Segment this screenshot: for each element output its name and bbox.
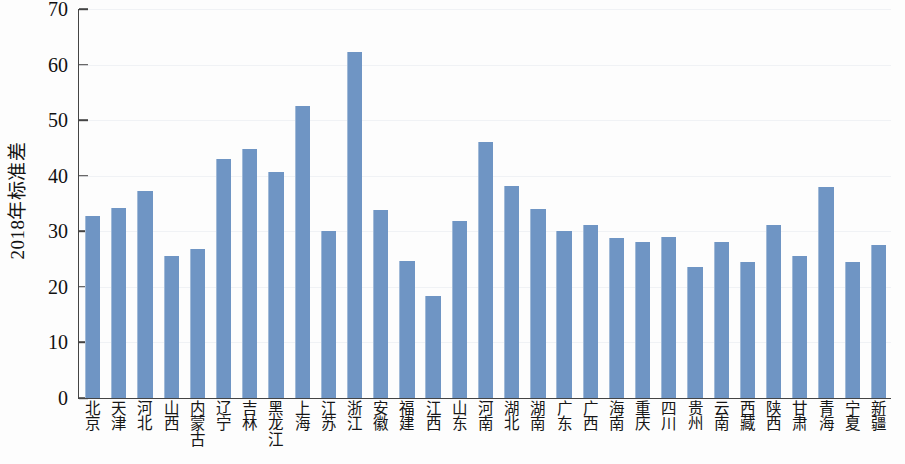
bar bbox=[216, 159, 231, 399]
x-axis-tick-label: 河北 bbox=[135, 400, 151, 431]
x-axis-tick-label: 湖北 bbox=[502, 400, 518, 431]
bar bbox=[242, 149, 257, 398]
bar bbox=[635, 242, 650, 398]
bar bbox=[321, 231, 336, 398]
x-axis-tick-label: 云南 bbox=[712, 400, 728, 431]
x-axis-tick-label: 江西 bbox=[424, 400, 440, 431]
x-axis-tick-label: 甘肃 bbox=[790, 400, 806, 431]
bar bbox=[845, 262, 860, 398]
bar bbox=[399, 261, 414, 398]
y-axis-tick-label: 0 bbox=[58, 387, 68, 410]
y-axis-tick-labels: 010203040506070 bbox=[30, 0, 74, 398]
y-axis-tick-label: 70 bbox=[48, 0, 68, 21]
x-axis-tick-label: 河南 bbox=[476, 400, 492, 431]
bar bbox=[425, 296, 440, 398]
x-axis-tick-label: 宁夏 bbox=[843, 400, 859, 431]
bar bbox=[373, 210, 388, 398]
x-axis-tick-label: 四川 bbox=[659, 400, 675, 431]
y-axis-tick-label: 60 bbox=[48, 53, 68, 76]
x-axis-tick-label: 吉林 bbox=[240, 400, 256, 431]
x-axis-tick-labels: 北京天津河北山西内蒙古辽宁吉林黑龙江上海江苏浙江安徽福建江西山东河南湖北湖南广东… bbox=[78, 400, 890, 464]
bar bbox=[137, 191, 152, 398]
x-axis-tick-label: 上海 bbox=[293, 400, 309, 431]
x-axis-tick-label: 北京 bbox=[83, 400, 99, 431]
bar bbox=[478, 142, 493, 398]
y-axis-tick-label: 30 bbox=[48, 220, 68, 243]
bar bbox=[871, 245, 886, 398]
x-axis-tick-label: 天津 bbox=[109, 400, 125, 431]
bar bbox=[452, 221, 467, 398]
bar-chart-figure: 2018年标准差 010203040506070 北京天津河北山西内蒙古辽宁吉林… bbox=[0, 0, 905, 464]
bar bbox=[295, 106, 310, 398]
x-axis-tick-label: 江苏 bbox=[319, 400, 335, 431]
x-axis-tick-label: 浙江 bbox=[345, 400, 361, 431]
x-axis-tick-label: 广西 bbox=[581, 400, 597, 431]
bar bbox=[556, 231, 571, 398]
x-axis-tick-label: 新疆 bbox=[869, 400, 885, 431]
bar bbox=[85, 216, 100, 398]
x-axis-tick-label: 山西 bbox=[162, 400, 178, 431]
x-axis-tick-label: 辽宁 bbox=[214, 400, 230, 431]
y-axis-tick-label: 10 bbox=[48, 331, 68, 354]
bar bbox=[347, 52, 362, 398]
y-axis-title-text: 2018年标准差 bbox=[2, 141, 29, 259]
bar bbox=[609, 238, 624, 398]
x-axis-tick-label: 陕西 bbox=[764, 400, 780, 431]
bar bbox=[714, 242, 729, 398]
x-axis-tick-label: 重庆 bbox=[633, 400, 649, 431]
y-axis-tick-label: 20 bbox=[48, 275, 68, 298]
x-axis-tick-label: 广东 bbox=[555, 400, 571, 431]
plot-area bbox=[78, 9, 891, 399]
bar bbox=[583, 225, 598, 398]
bar bbox=[792, 256, 807, 398]
x-axis-tick-label: 安徽 bbox=[371, 400, 387, 431]
y-axis-tick-label: 40 bbox=[48, 164, 68, 187]
y-axis-tick-label: 50 bbox=[48, 109, 68, 132]
bar bbox=[661, 237, 676, 398]
bar bbox=[687, 267, 702, 398]
x-axis-tick-label: 黑龙江 bbox=[266, 400, 282, 446]
x-axis-tick-label: 贵州 bbox=[686, 400, 702, 431]
bar bbox=[504, 186, 519, 398]
bar bbox=[111, 208, 126, 398]
bars-layer bbox=[79, 9, 891, 398]
bar bbox=[164, 256, 179, 398]
x-axis-tick-label: 内蒙古 bbox=[188, 400, 204, 446]
x-axis-tick-label: 湖南 bbox=[528, 400, 544, 431]
bar bbox=[530, 209, 545, 398]
bar bbox=[740, 262, 755, 398]
x-axis-tick-label: 西藏 bbox=[738, 400, 754, 431]
x-axis-tick-label: 海南 bbox=[607, 400, 623, 431]
x-axis-tick-label: 山东 bbox=[450, 400, 466, 431]
y-axis-title: 2018年标准差 bbox=[0, 0, 30, 400]
bar bbox=[190, 249, 205, 398]
x-axis-tick-label: 青海 bbox=[817, 400, 833, 431]
bar bbox=[268, 172, 283, 398]
bar bbox=[766, 225, 781, 398]
bar bbox=[818, 187, 833, 398]
x-axis-tick-label: 福建 bbox=[397, 400, 413, 431]
